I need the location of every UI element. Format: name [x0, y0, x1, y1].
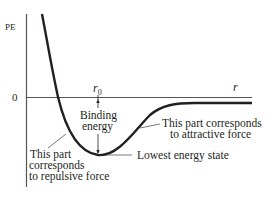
lowest-energy-label: Lowest energy state	[137, 149, 229, 162]
attractive-label-line2: to attractive force	[170, 128, 251, 140]
attractive-leader	[140, 124, 160, 128]
origin-label: 0	[12, 91, 18, 103]
y-axis-label: PE	[5, 22, 16, 32]
x-axis-label: r	[233, 80, 238, 94]
r0-label: r0	[93, 81, 102, 97]
repulsive-leader	[48, 134, 66, 148]
binding-energy-label-line2: energy	[82, 120, 113, 133]
potential-energy-diagram: PE 0 r r0 Binding energy Lowest energy s…	[0, 0, 276, 197]
repulsive-label-line3: to repulsive force	[29, 170, 109, 183]
